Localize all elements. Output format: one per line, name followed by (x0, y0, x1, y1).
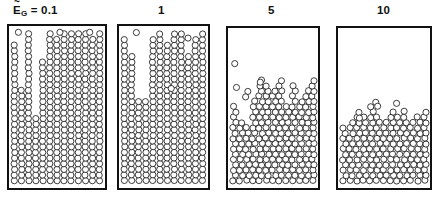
panel-label-1: ~EG = 0.1 (13, 4, 58, 18)
energy-symbol: ~E (13, 4, 21, 16)
equals-sign: = (31, 4, 38, 16)
panel-label-3: 5 (268, 4, 275, 16)
panel-1-value: 0.1 (41, 4, 58, 16)
panel-label-4: 10 (377, 4, 390, 16)
simulation-panel-1 (7, 24, 107, 190)
simulation-panel-2 (117, 24, 210, 190)
energy-subscript: G (21, 9, 27, 18)
granular-simulation-figure: ~EG = 0.1 1 5 10 (0, 0, 441, 206)
tilde-accent: ~ (14, 0, 20, 7)
particle-field-3 (228, 28, 318, 188)
particle-field-1 (9, 26, 105, 188)
particle-field-4 (338, 28, 430, 188)
panel-label-2: 1 (158, 4, 165, 16)
simulation-panel-4 (336, 26, 432, 190)
simulation-panel-3 (226, 26, 320, 190)
particle-field-2 (119, 26, 208, 188)
